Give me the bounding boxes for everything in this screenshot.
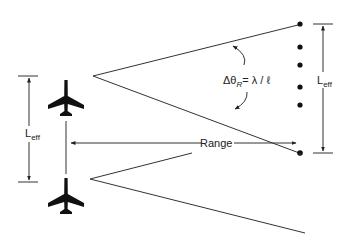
radar-beam-diagram: Leff ΔθR= λ / ℓ Leff Range — [0, 0, 351, 243]
svg-text:Leff: Leff — [317, 74, 333, 89]
array-element — [297, 84, 302, 89]
airplane-icon — [48, 178, 84, 214]
array-element — [297, 21, 302, 26]
lower-beam — [90, 153, 305, 233]
airplane-icon — [48, 80, 84, 116]
svg-text:ΔθR= λ / ℓ: ΔθR= λ / ℓ — [223, 74, 270, 89]
upper-beam — [93, 24, 302, 154]
array-element — [297, 62, 302, 67]
svg-text:Range: Range — [200, 137, 232, 149]
beamwidth-angle-arc: ΔθR= λ / ℓ — [223, 46, 270, 109]
array-element — [297, 102, 302, 107]
array-element — [297, 44, 302, 49]
left-leff-dimension: Leff — [18, 76, 41, 182]
antenna-array — [297, 21, 303, 155]
right-leff-dimension: Leff — [313, 24, 333, 153]
svg-text:Leff: Leff — [25, 127, 41, 142]
